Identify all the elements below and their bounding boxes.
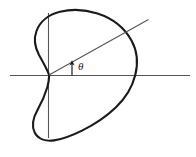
theta-angle-label: θ — [78, 61, 83, 72]
angle-arrow — [69, 60, 74, 75]
figure-canvas — [0, 0, 196, 157]
cardioid-figure: θ — [0, 0, 196, 157]
